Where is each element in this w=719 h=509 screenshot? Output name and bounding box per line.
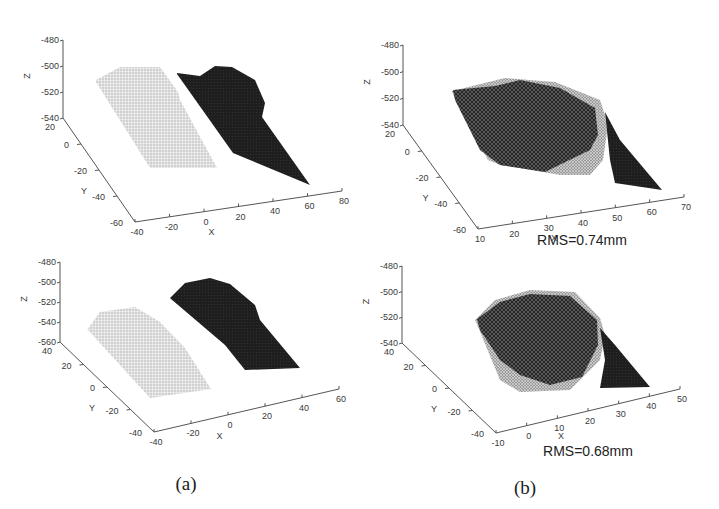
z-tick-label: -480 <box>380 261 398 271</box>
z-tick-label: -520 <box>381 93 399 103</box>
x-tick-label: -40 <box>130 227 143 237</box>
y-tick-mark <box>95 170 99 171</box>
z-axis-label: Z <box>361 298 371 304</box>
y-tick-mark <box>113 196 117 197</box>
rms-annotation: RMS=0.68mm <box>543 443 633 459</box>
plot-panel-b-bottom: -540-520-500-480Z-40-2002040Y-1001020304… <box>361 261 687 459</box>
z-axis-label: Z <box>22 73 32 79</box>
y-tick-label: -40 <box>434 199 447 209</box>
y-tick-label: 20 <box>45 122 55 132</box>
y-tick-label: -60 <box>110 218 123 228</box>
y-tick-label: 0 <box>405 147 410 157</box>
y-tick-mark <box>437 177 441 178</box>
caption-b: (b) <box>514 477 536 499</box>
z-axis-label: Z <box>19 296 29 302</box>
x-tick-label: 20 <box>585 416 595 426</box>
y-tick-label: 20 <box>385 129 395 139</box>
y-tick-label: -20 <box>74 166 87 176</box>
y-tick-label: -20 <box>415 173 428 183</box>
z-tick-mark <box>60 118 63 119</box>
y-tick-label: 0 <box>432 384 437 394</box>
z-tick-label: -540 <box>38 317 56 327</box>
x-tick-label: 10 <box>475 234 485 244</box>
z-tick-label: -500 <box>381 67 399 77</box>
y-tick-label: 20 <box>61 361 71 371</box>
surface-series-2 <box>605 112 662 190</box>
y-tick-mark <box>422 366 426 367</box>
z-tick-label: -480 <box>38 257 56 267</box>
x-axis-label: X <box>209 227 215 237</box>
surface-series-2 <box>600 328 650 388</box>
y-axis-label: Y <box>423 193 429 203</box>
z-tick-label: -500 <box>380 287 398 297</box>
y-tick-label: 20 <box>403 362 413 372</box>
z-tick-label: -500 <box>41 61 59 71</box>
x-tick-label: 50 <box>677 394 687 404</box>
surface-series-1 <box>477 294 598 385</box>
x-tick-label: 60 <box>304 201 314 211</box>
y-tick-label: -20 <box>447 407 460 417</box>
x-tick-label: -40 <box>149 437 162 447</box>
y-axis-label: Y <box>81 186 87 196</box>
x-tick-label: 30 <box>616 409 626 419</box>
x-axis-label: X <box>217 431 223 441</box>
x-tick-label: -20 <box>165 222 178 232</box>
x-tick-label: 20 <box>235 212 245 222</box>
caption-a: (a) <box>175 473 196 495</box>
z-tick-mark <box>399 343 402 344</box>
x-tick-label: 0 <box>526 431 531 441</box>
y-tick-mark <box>418 151 422 152</box>
x-tick-label: 80 <box>339 196 349 206</box>
y-tick-mark <box>77 144 81 145</box>
x-tick-label: -10 <box>491 438 504 448</box>
x-tick-label: 40 <box>646 401 656 411</box>
y-tick-mark <box>445 388 449 389</box>
y-axis-label: Y <box>89 403 95 413</box>
x-tick-label: 60 <box>336 394 346 404</box>
y-tick-mark <box>80 365 84 366</box>
z-tick-label: -500 <box>38 277 56 287</box>
x-tick-label: 40 <box>270 206 280 216</box>
z-axis-label: Z <box>362 79 372 85</box>
x-tick-label: -20 <box>186 428 199 438</box>
rms-annotation: RMS=0.74mm <box>537 232 627 248</box>
y-tick-mark <box>103 387 107 388</box>
x-axis-label: X <box>558 431 564 441</box>
y-tick-label: 0 <box>64 140 69 150</box>
y-tick-label: -60 <box>453 225 466 235</box>
z-tick-mark <box>57 342 60 343</box>
x-tick-label: 20 <box>262 411 272 421</box>
x-tick-label: 20 <box>509 229 519 239</box>
y-tick-label: 40 <box>42 346 52 356</box>
z-tick-label: -520 <box>380 312 398 322</box>
surface-series-0 <box>87 307 211 398</box>
x-tick-label: 60 <box>647 207 657 217</box>
y-axis-label: Y <box>431 404 437 414</box>
z-tick-label: -480 <box>41 35 59 45</box>
y-tick-mark <box>127 410 131 411</box>
y-tick-label: -40 <box>92 192 105 202</box>
y-tick-mark <box>455 203 459 204</box>
z-tick-label: -520 <box>38 297 56 307</box>
z-tick-mark <box>400 125 403 126</box>
z-tick-label: -480 <box>381 40 399 50</box>
y-tick-label: -40 <box>471 429 484 439</box>
y-tick-label: -20 <box>105 406 118 416</box>
figure: -540-520-500-480Z-60-40-20020Y-40-200204… <box>0 0 719 509</box>
x-tick-label: 50 <box>612 213 622 223</box>
x-tick-label: 0 <box>203 217 208 227</box>
x-axis-line <box>154 389 339 432</box>
y-tick-label: 0 <box>90 383 95 393</box>
plot-panel-a-bottom: -560-540-520-500-480Z-40-2002040Y-40-200… <box>19 257 346 447</box>
plot-panel-a-top: -540-520-500-480Z-60-40-20020Y-40-200204… <box>22 35 349 237</box>
y-tick-mark <box>469 411 473 412</box>
z-tick-label: -520 <box>41 87 59 97</box>
plot-panel-b-top: -540-520-500-480Z-60-40-20020Y1020304050… <box>362 40 691 248</box>
x-tick-label: 0 <box>227 420 232 430</box>
x-tick-label: 40 <box>578 218 588 228</box>
y-tick-label: -40 <box>129 428 142 438</box>
x-tick-label: 70 <box>681 202 691 212</box>
y-tick-label: 40 <box>384 347 394 357</box>
x-tick-label: 40 <box>299 403 309 413</box>
